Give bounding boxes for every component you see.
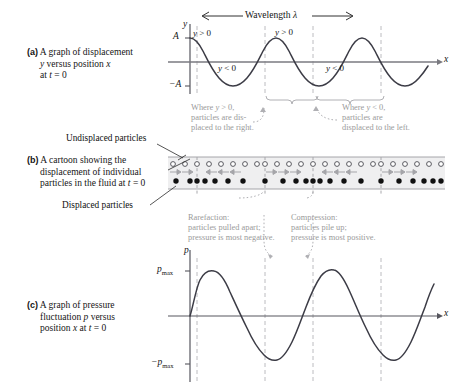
undisplaced-particle bbox=[275, 162, 280, 167]
leader-negative-note bbox=[317, 107, 337, 120]
displaced-particle bbox=[240, 178, 245, 183]
displaced-particle bbox=[410, 178, 415, 183]
panel-c-x-axis-arrowhead bbox=[437, 313, 443, 319]
curve-label-y-positive-2: y > 0 bbox=[275, 27, 293, 37]
positive-displacement-note-line-1: Where y > 0, bbox=[191, 103, 267, 113]
leader-undisplaced bbox=[157, 144, 183, 158]
displaced-particle bbox=[378, 178, 383, 183]
panel-c-y-axis-label: p bbox=[184, 245, 189, 255]
displaced-particle bbox=[202, 178, 207, 183]
undisplaced-particle bbox=[311, 162, 316, 167]
compression-note-line-1: Compression: bbox=[291, 213, 391, 223]
sound-wave-figure: (a) A graph of displacement y versus pos… bbox=[0, 0, 456, 392]
displaced-particle bbox=[280, 178, 285, 183]
panel-c-x-axis-label: x bbox=[444, 308, 448, 318]
displaced-particle bbox=[187, 178, 192, 183]
figure-graphics bbox=[0, 0, 456, 392]
undisplaced-particle bbox=[299, 162, 304, 167]
displaced-particle bbox=[396, 178, 401, 183]
displaced-particles-label: Displaced particles bbox=[62, 200, 133, 211]
displaced-particle bbox=[341, 178, 346, 183]
rarefaction-note-line-2: particles pulled apart; bbox=[188, 223, 284, 233]
negative-displacement-note: Where y < 0, particles are displaced to … bbox=[342, 103, 432, 133]
displaced-particle bbox=[358, 178, 363, 183]
panel-a-y-axis-label: y bbox=[183, 19, 187, 29]
curve-label-y-negative-2: y < 0 bbox=[326, 63, 344, 73]
pressure-wave-curve bbox=[190, 270, 434, 361]
undisplaced-particle bbox=[391, 162, 396, 167]
undisplaced-particle bbox=[231, 162, 236, 167]
undisplaced-particle bbox=[195, 162, 200, 167]
panel-c-ytick-bottom-label: −pmax bbox=[151, 357, 174, 369]
leader-displaced bbox=[150, 186, 176, 205]
negative-displacement-note-line-1: Where y < 0, bbox=[342, 103, 432, 113]
panel-c-dashed-lines bbox=[197, 258, 381, 382]
undisplaced-particle bbox=[219, 162, 224, 167]
curve-label-y-negative-1: y < 0 bbox=[218, 63, 236, 73]
panel-c-ytick-top-label: pmax bbox=[157, 264, 173, 276]
panel-a-plot bbox=[168, 12, 443, 94]
undisplaced-particle bbox=[359, 162, 364, 167]
undisplaced-particle bbox=[379, 162, 384, 167]
displaced-particle bbox=[194, 178, 199, 183]
leader-arrow-4 bbox=[305, 254, 310, 259]
panel-b-particle-band bbox=[150, 144, 445, 205]
positive-displacement-note: Where y > 0, particles are dis- placed t… bbox=[191, 103, 267, 133]
displaced-particle bbox=[293, 178, 298, 183]
positive-displacement-note-line-2: particles are dis- bbox=[191, 113, 267, 123]
undisplaced-particle bbox=[335, 162, 340, 167]
displaced-particle bbox=[262, 178, 267, 183]
leader-rarefaction-note bbox=[239, 191, 264, 198]
wavelength-label: Wavelength λ bbox=[245, 9, 297, 20]
undisplaced-particle bbox=[263, 162, 268, 167]
displaced-particle bbox=[421, 178, 426, 183]
displaced-particle bbox=[430, 178, 435, 183]
panel-a-ytick-top-label: A bbox=[173, 31, 179, 41]
displaced-particle bbox=[310, 178, 315, 183]
compression-note-line-3: pressure is most positive. bbox=[291, 233, 391, 243]
brace-rarefaction bbox=[266, 96, 318, 104]
positive-displacement-note-line-3: placed to the right. bbox=[191, 123, 267, 133]
undisplaced-particle bbox=[427, 162, 432, 167]
displaced-particle bbox=[438, 178, 443, 183]
compression-note-line-2: particles pile up; bbox=[291, 223, 391, 233]
undisplaced-particle bbox=[403, 162, 408, 167]
leader-arrow-2 bbox=[313, 106, 319, 111]
panel-a-ytick-bottom-label: −A bbox=[169, 79, 181, 89]
panel-c-plot bbox=[168, 250, 443, 382]
undisplaced-particle bbox=[243, 162, 248, 167]
leader-compression-note bbox=[307, 191, 313, 198]
compression-note: Compression: particles pile up; pressure… bbox=[291, 213, 391, 243]
undisplaced-particle bbox=[207, 162, 212, 167]
displaced-particle bbox=[327, 178, 332, 183]
negative-displacement-note-line-3: displaced to the left. bbox=[342, 123, 432, 133]
curve-label-y-positive-1: y > 0 bbox=[193, 28, 211, 38]
undisplaced-particle bbox=[347, 162, 352, 167]
rarefaction-note: Rarefaction: particles pulled apart; pre… bbox=[188, 213, 284, 243]
rarefaction-note-line-1: Rarefaction: bbox=[188, 213, 284, 223]
panel-a-x-axis-label: x bbox=[444, 54, 448, 64]
undisplaced-particle bbox=[439, 162, 444, 167]
undisplaced-particle bbox=[371, 162, 376, 167]
undisplaced-particle bbox=[287, 162, 292, 167]
undisplaced-particle bbox=[171, 162, 176, 167]
displaced-particle bbox=[173, 178, 178, 183]
displaced-particle bbox=[225, 178, 230, 183]
panel-a-x-axis-arrowhead bbox=[437, 59, 443, 65]
displaced-particle bbox=[317, 178, 322, 183]
displaced-particle bbox=[212, 178, 217, 183]
negative-displacement-note-line-2: particles are bbox=[342, 113, 432, 123]
undisplaced-particles-label: Undisplaced particles bbox=[66, 133, 146, 144]
undisplaced-particle bbox=[255, 162, 260, 167]
displaced-particle bbox=[303, 178, 308, 183]
rarefaction-note-line-3: pressure is most negative. bbox=[188, 233, 284, 243]
undisplaced-particle bbox=[415, 162, 420, 167]
undisplaced-particle bbox=[323, 162, 328, 167]
